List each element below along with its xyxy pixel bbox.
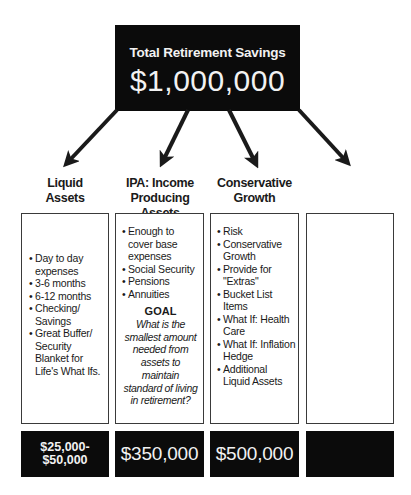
item-text: Social Security <box>128 263 194 275</box>
item-text: Bucket List Items <box>223 288 272 313</box>
item-text: Checking/ Savings <box>35 302 80 327</box>
list-item: •Provide for "Extras" <box>215 263 296 288</box>
ipa-value: $350,000 <box>121 443 199 465</box>
list-item: •What If: Inflation Hedge <box>215 338 296 363</box>
list-item: •Pensions <box>120 275 201 288</box>
conservative-growth-value-box: $500,000 <box>210 431 299 477</box>
arrow-liquid-icon <box>68 110 117 162</box>
item-text: What If: Inflation Hedge <box>223 338 295 363</box>
list-item: •Conservative Growth <box>215 238 296 263</box>
goal-heading: GOAL <box>120 305 201 318</box>
conservative-growth-box: •Risk •Conservative Growth •Provide for … <box>210 213 299 424</box>
conservative-growth-list: •Risk •Conservative Growth •Provide for … <box>215 225 296 388</box>
ipa-box: •Enough to cover base expenses •Social S… <box>115 213 204 424</box>
list-item: •Day to day expenses <box>27 252 106 277</box>
list-item: •3-6 months <box>27 277 106 290</box>
item-text: 3-6 months <box>35 277 86 289</box>
heading-line: Conservative <box>210 176 299 191</box>
list-item: •Social Security <box>120 263 201 276</box>
heading-line: IPA: Income <box>110 176 210 191</box>
list-item: •What If: Health Care <box>215 313 296 338</box>
value-line: $50,000 <box>40 454 89 467</box>
arrow-fourth-icon <box>299 110 346 161</box>
list-item: •Enough to cover base expenses <box>120 225 201 263</box>
goal-question: What is the smallest amount needed from … <box>120 318 201 407</box>
list-item: •Bucket List Items <box>215 288 296 313</box>
liquid-assets-value: $25,000- $50,000 <box>40 441 89 467</box>
item-text: Annuities <box>128 288 169 300</box>
arrow-ipa-icon <box>163 110 188 161</box>
list-item: •Risk <box>215 225 296 238</box>
item-text: Great Buffer/ Security Blanket for Life'… <box>35 327 100 377</box>
heading-line: Growth <box>210 191 299 206</box>
liquid-assets-value-box: $25,000- $50,000 <box>21 431 109 477</box>
item-text: Additional Liquid Assets <box>223 363 282 388</box>
liquid-assets-list: •Day to day expenses •3-6 months •6-12 m… <box>27 252 106 377</box>
liquid-assets-box: •Day to day expenses •3-6 months •6-12 m… <box>21 213 109 424</box>
item-text: Enough to cover base expenses <box>128 225 177 262</box>
conservative-growth-value: $500,000 <box>216 443 294 465</box>
item-text: 6-12 months <box>35 290 91 302</box>
item-text: Risk <box>223 225 243 237</box>
list-item: •Great Buffer/ Security Blanket for Life… <box>27 327 106 377</box>
ipa-list: •Enough to cover base expenses •Social S… <box>120 225 201 300</box>
arrow-conservative-icon <box>229 110 255 162</box>
column-heading-conservative-growth: Conservative Growth <box>210 176 299 206</box>
item-text: Provide for "Extras" <box>223 263 272 288</box>
list-item: •Annuities <box>120 288 201 301</box>
empty-value-box <box>306 431 394 477</box>
list-item: •Additional Liquid Assets <box>215 363 296 388</box>
item-text: What If: Health Care <box>223 313 289 338</box>
list-item: •6-12 months <box>27 290 106 303</box>
ipa-value-box: $350,000 <box>115 431 204 477</box>
item-text: Conservative Growth <box>223 238 282 263</box>
column-heading-liquid-assets: Liquid Assets <box>21 176 109 206</box>
item-text: Day to day expenses <box>35 252 83 277</box>
item-text: Pensions <box>128 275 170 287</box>
heading-line: Assets <box>21 191 109 206</box>
empty-category-box <box>306 213 394 424</box>
list-item: •Checking/ Savings <box>27 302 106 327</box>
heading-line: Liquid <box>21 176 109 191</box>
